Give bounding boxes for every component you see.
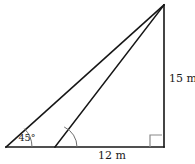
angle-arc-cevian-vertex bbox=[64, 127, 77, 147]
side-label-vertical-15m: 15 m bbox=[169, 72, 195, 85]
angle-label-45-degrees: 45° bbox=[19, 132, 36, 143]
triangle-diagram: 45° 15 m 12 m bbox=[0, 0, 195, 164]
right-angle-marker-icon bbox=[150, 135, 162, 147]
triangle-cevian-line bbox=[55, 5, 164, 147]
triangle-hypotenuse-line bbox=[6, 5, 164, 147]
geometry-figure-container: 45° 15 m 12 m bbox=[0, 0, 195, 164]
side-label-base-12m: 12 m bbox=[98, 149, 126, 162]
